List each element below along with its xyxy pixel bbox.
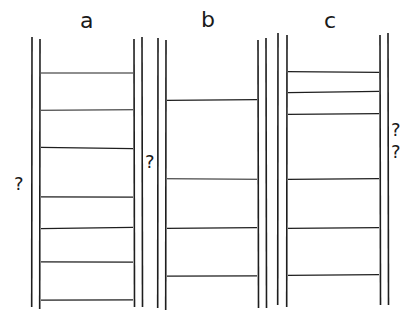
grain-circle [168, 215, 177, 227]
grain-circle [238, 203, 247, 215]
grain-circle [178, 216, 186, 228]
grain-circle [74, 246, 79, 251]
grain-circle [213, 87, 224, 99]
grain-circle [207, 154, 217, 167]
grain-circle [64, 173, 75, 184]
grain-circle [289, 203, 300, 215]
grain-circle [302, 167, 315, 179]
grain-circle [356, 215, 368, 228]
grain-circle [189, 204, 197, 215]
grain-circle [109, 172, 120, 184]
grain-circle [178, 155, 186, 166]
grain-circle [369, 263, 378, 275]
grain-circle [348, 263, 357, 275]
grain-circle [73, 94, 82, 108]
grain-circle [207, 166, 216, 178]
grain-circle [327, 97, 341, 114]
grain-circle [169, 155, 177, 165]
grain-circle [246, 76, 257, 88]
grain-circle [227, 252, 236, 263]
grain-circle [302, 98, 313, 113]
column-b-shelf-1 [167, 100, 257, 101]
column-a-right-outer-wall [142, 37, 143, 307]
column-b-shelf-3 [167, 228, 257, 229]
grain-circle [75, 184, 86, 197]
grain-circle [198, 203, 207, 215]
grain-circle [226, 204, 236, 215]
grain-circle [229, 154, 234, 159]
grain-circle [238, 215, 246, 226]
grain-circle [329, 250, 339, 262]
grain-circle [68, 57, 78, 72]
grain-circle [290, 57, 303, 72]
grain-circle [341, 250, 346, 255]
column-a-right-inner-wall [134, 39, 135, 307]
grain-circle [105, 133, 113, 147]
grain-circle [52, 94, 62, 109]
grain-circle [61, 285, 69, 299]
grain-circle [79, 285, 86, 299]
grain-circle [62, 95, 73, 110]
grain-circle [179, 204, 188, 215]
grain-circle [290, 77, 304, 92]
grain-circle [87, 284, 96, 298]
grain-circle [293, 143, 298, 148]
grain-circle [308, 250, 318, 262]
grain-circle [303, 145, 314, 155]
grain-circle [228, 167, 237, 178]
grain-circle [302, 155, 314, 167]
grain-circle [52, 247, 60, 261]
column-b-right-outer-wall [266, 38, 267, 308]
grain-circle [114, 58, 123, 72]
column-a-shelf-2 [41, 110, 133, 111]
grain-circle [43, 95, 51, 109]
grain-circle [82, 95, 92, 110]
grain-circle [340, 167, 352, 179]
grain-circle [308, 56, 313, 61]
grain-circle [349, 77, 363, 92]
grain-circle [41, 57, 52, 72]
grain-circle [107, 284, 112, 289]
grain-circle [302, 262, 307, 267]
grain-circle [340, 263, 349, 274]
grain-circle [87, 173, 97, 184]
grain-circle [315, 144, 328, 156]
grain-circle [120, 213, 131, 228]
column-c-shelf-1 [288, 72, 379, 73]
column-c-right-outer-wall [388, 33, 389, 305]
grain-circle [96, 285, 104, 299]
grain-circle [197, 166, 207, 178]
grain-circle [114, 133, 122, 147]
grain-circle [331, 262, 336, 267]
grain-circle [198, 264, 206, 276]
grain-circle [123, 57, 131, 71]
column-c-shelf-4 [288, 179, 379, 180]
grain-circle [121, 185, 131, 196]
grain-circle [348, 55, 364, 72]
grain-circle [367, 203, 379, 216]
grain-circle [53, 172, 63, 184]
grain-circle [315, 203, 320, 208]
grain-circle [323, 203, 333, 215]
grain-circle [323, 76, 329, 82]
column-b-right-inner-wall [258, 40, 259, 308]
grain-circle [349, 250, 358, 262]
grain-circle [345, 215, 357, 228]
grain-circle [191, 76, 200, 88]
column-a-shelf-3 [41, 147, 133, 148]
grain-circle [102, 212, 107, 217]
grain-circle [70, 132, 78, 147]
diagram-canvas [0, 0, 419, 323]
grain-circle [248, 252, 256, 263]
grain-circle [366, 145, 377, 155]
grain-circle [59, 132, 69, 147]
grain-circle [328, 168, 339, 178]
grain-circle [87, 185, 97, 196]
grain-circle [168, 252, 178, 264]
grain-circle [76, 212, 86, 226]
column-label-a: a [80, 10, 93, 32]
grain-circle [203, 75, 208, 80]
grain-circle [355, 203, 366, 216]
grain-circle [200, 215, 206, 221]
grain-circle [289, 98, 303, 114]
